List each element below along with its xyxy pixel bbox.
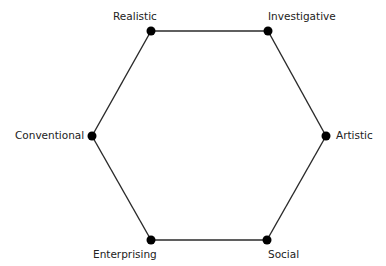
- edge-artistic-social: [267, 136, 326, 240]
- label-realistic: Realistic: [113, 10, 157, 22]
- node-enterprising-dot: [147, 236, 156, 245]
- label-artistic: Artistic: [336, 129, 373, 141]
- edge-enterprising-conventional: [92, 136, 151, 240]
- label-enterprising: Enterprising: [93, 248, 157, 260]
- node-conventional-dot: [88, 132, 97, 141]
- edge-investigative-artistic: [268, 31, 326, 136]
- node-social-dot: [263, 236, 272, 245]
- label-investigative: Investigative: [268, 10, 336, 22]
- node-investigative-dot: [264, 27, 273, 36]
- label-conventional: Conventional: [15, 129, 84, 141]
- edge-conventional-realistic: [92, 31, 151, 136]
- node-realistic-dot: [147, 27, 156, 36]
- label-social: Social: [268, 248, 299, 260]
- node-artistic-dot: [322, 132, 331, 141]
